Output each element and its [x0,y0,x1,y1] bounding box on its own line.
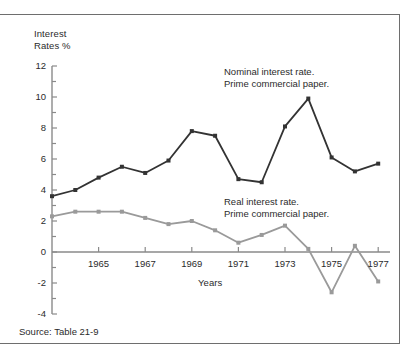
y-tick-label: 12 [24,60,46,71]
y-tick-label: -4 [24,308,46,319]
x-tick-label: 1969 [175,258,209,269]
x-tick-label: 1975 [315,258,349,269]
y-tick-label: 6 [24,153,46,164]
series-label-real: Real interest rate.Prime commercial pape… [224,196,329,219]
y-tick-label: -2 [24,277,46,288]
chart-plot-area: InterestRates % Years Nominal interest r… [0,0,414,359]
series-label-nominal-line1: Nominal interest rate. [224,66,314,77]
x-tick-label: 1965 [82,258,116,269]
x-tick-label: 1973 [268,258,302,269]
figure-container: InterestRates % Years Nominal interest r… [0,0,414,359]
x-tick-label: 1971 [221,258,255,269]
x-tick-label: 1967 [128,258,162,269]
source-note: Source: Table 21-9 [19,326,99,337]
y-axis-title-line1: Interest [34,28,66,39]
x-tick-label: 1977 [361,258,395,269]
series-label-real-line1: Real interest rate. [224,196,299,207]
y-tick-label: 0 [24,246,46,257]
series-label-nominal-line2: Prime commercial paper. [224,78,329,89]
series-label-nominal: Nominal interest rate.Prime commercial p… [224,66,329,89]
y-tick-label: 10 [24,91,46,102]
y-tick-label: 2 [24,215,46,226]
chart-svg [0,0,414,359]
x-axis-title: Years [198,277,222,289]
series-label-real-line2: Prime commercial paper. [224,208,329,219]
y-axis-title: InterestRates % [34,28,71,51]
y-tick-label: 4 [24,184,46,195]
y-axis-title-line2: Rates % [34,40,71,51]
y-tick-label: 8 [24,122,46,133]
